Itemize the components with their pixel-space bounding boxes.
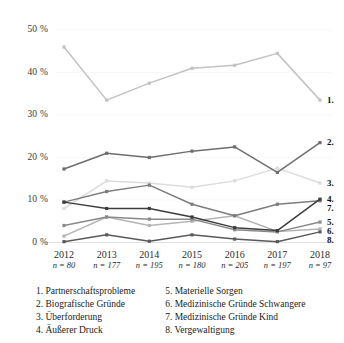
- legend-item: 6. Medizinische Gründe Schwangere: [165, 298, 344, 311]
- data-point-2-2018: [318, 141, 321, 144]
- legend-item: 3. Überforderung: [36, 311, 165, 324]
- data-point-1-2014: [148, 82, 151, 85]
- legend-item: 4. Äußerer Druck: [36, 324, 165, 337]
- legend-item: 1. Partnerschaftsprobleme: [36, 285, 165, 298]
- y-axis-tick-0: 0 %: [8, 237, 48, 247]
- x-tick-year: 2018: [298, 249, 342, 260]
- legend-item: 2. Biografische Gründe: [36, 298, 165, 311]
- plot-area: [0, 0, 344, 262]
- data-point-6-2014: [148, 224, 151, 227]
- data-point-1-2013: [105, 99, 108, 102]
- x-axis-tick-2012: 2012n = 80: [42, 249, 86, 271]
- x-tick-sample-size: n = 80: [42, 260, 86, 271]
- y-axis-tick-30: 30 %: [8, 109, 48, 119]
- data-point-4-2014: [148, 207, 151, 210]
- data-point-4-2017: [276, 229, 279, 232]
- x-tick-year: 2013: [85, 249, 129, 260]
- x-tick-sample-size: n = 97: [298, 260, 342, 271]
- data-point-7-2013: [105, 190, 108, 193]
- y-axis-tick-20: 20 %: [8, 152, 48, 162]
- data-point-2-2016: [233, 145, 236, 148]
- data-point-3-2017: [276, 167, 279, 170]
- data-point-1-2018: [318, 99, 321, 102]
- x-tick-sample-size: n = 197: [255, 260, 299, 271]
- legend-item: 8. Vergewaltigung: [165, 324, 344, 337]
- series-end-label-7: 7.: [327, 204, 334, 213]
- x-tick-sample-size: n = 195: [127, 260, 171, 271]
- x-tick-year: 2017: [255, 249, 299, 260]
- x-axis-tick-2016: 2016n = 205: [213, 249, 257, 271]
- x-tick-year: 2012: [42, 249, 86, 260]
- data-point-1-2016: [233, 64, 236, 67]
- data-point-1-2012: [62, 45, 65, 48]
- data-point-3-2012: [62, 207, 65, 210]
- data-point-3-2013: [105, 179, 108, 182]
- line-chart-figure: 0 %10 %20 %30 %40 %50 %2012n = 802013n =…: [0, 0, 344, 343]
- data-point-1-2015: [190, 67, 193, 70]
- data-point-4-2018: [318, 198, 321, 201]
- data-point-4-2012: [62, 201, 65, 204]
- data-point-8-2015: [190, 233, 193, 236]
- data-point-8-2017: [276, 240, 279, 243]
- data-point-7-2015: [190, 203, 193, 206]
- x-tick-sample-size: n = 180: [170, 260, 214, 271]
- data-point-3-2018: [318, 181, 321, 184]
- data-point-8-2018: [318, 230, 321, 233]
- data-point-3-2015: [190, 186, 193, 189]
- chart-legend: 1. Partnerschaftsprobleme2. Biografische…: [0, 285, 344, 337]
- data-point-2-2012: [62, 167, 65, 170]
- data-point-6-2018: [318, 227, 321, 230]
- data-point-5-2013: [105, 215, 108, 218]
- y-axis-tick-10: 10 %: [8, 194, 48, 204]
- data-point-8-2016: [233, 238, 236, 241]
- data-point-2-2017: [276, 171, 279, 174]
- data-point-2-2013: [105, 152, 108, 155]
- series-end-label-8: 8.: [327, 236, 334, 245]
- data-point-4-2016: [233, 226, 236, 229]
- x-tick-sample-size: n = 205: [213, 260, 257, 271]
- data-point-5-2012: [62, 224, 65, 227]
- data-point-5-2018: [318, 221, 321, 224]
- series-line-1: [64, 47, 320, 100]
- data-point-2-2014: [148, 156, 151, 159]
- x-axis-tick-2014: 2014n = 195: [127, 249, 171, 271]
- x-axis-tick-2018: 2018n = 97: [298, 249, 342, 271]
- x-axis-tick-2015: 2015n = 180: [170, 249, 214, 271]
- x-tick-sample-size: n = 177: [85, 260, 129, 271]
- series-line-7: [64, 185, 320, 216]
- x-axis-tick-2013: 2013n = 177: [85, 249, 129, 271]
- legend-column-left: 1. Partnerschaftsprobleme2. Biografische…: [36, 285, 165, 337]
- data-point-4-2015: [190, 215, 193, 218]
- data-point-3-2016: [233, 179, 236, 182]
- data-point-8-2013: [105, 233, 108, 236]
- series-end-label-1: 1.: [327, 96, 334, 105]
- chart-svg: [0, 0, 344, 262]
- legend-item: 7. Medizinische Gründe Kind: [165, 311, 344, 324]
- y-axis-tick-40: 40 %: [8, 67, 48, 77]
- x-axis-tick-2017: 2017n = 197: [255, 249, 299, 271]
- data-point-4-2013: [105, 207, 108, 210]
- x-tick-year: 2014: [127, 249, 171, 260]
- data-point-7-2014: [148, 184, 151, 187]
- data-point-7-2017: [276, 203, 279, 206]
- y-axis-tick-50: 50 %: [8, 24, 48, 34]
- data-point-8-2014: [148, 240, 151, 243]
- x-tick-year: 2015: [170, 249, 214, 260]
- data-point-5-2014: [148, 218, 151, 221]
- series-end-label-2: 2.: [327, 138, 334, 147]
- data-point-2-2015: [190, 150, 193, 153]
- series-end-label-3: 3.: [327, 179, 334, 188]
- legend-item: 5. Materielle Sorgen: [165, 285, 344, 298]
- data-point-1-2017: [276, 52, 279, 55]
- data-point-6-2012: [62, 235, 65, 238]
- data-point-8-2012: [62, 240, 65, 243]
- legend-column-right: 5. Materielle Sorgen6. Medizinische Grün…: [165, 285, 344, 337]
- data-point-7-2016: [233, 214, 236, 217]
- x-tick-year: 2016: [213, 249, 257, 260]
